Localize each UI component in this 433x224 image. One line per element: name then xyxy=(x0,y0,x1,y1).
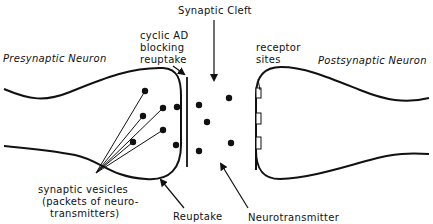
receptor-site xyxy=(256,113,261,124)
reuptake-label: Reuptake xyxy=(173,211,222,222)
synaptic-cleft-label: Synaptic Cleft xyxy=(178,5,252,16)
receptor-label-line1: receptor xyxy=(256,42,301,53)
postsynaptic-membrane-bottom xyxy=(256,150,429,179)
vesicle-leader-lines xyxy=(96,91,163,173)
reuptake-arrow xyxy=(161,180,184,208)
synapse-diagram: Synaptic Cleft Presynaptic Neuron Postsy… xyxy=(0,0,433,224)
receptor-site xyxy=(256,137,261,149)
neurotransmitter-dots xyxy=(196,95,234,154)
cyclic-ad-label-line3: reuptake xyxy=(140,54,187,65)
vesicles-label-line2: (packets of neuro- xyxy=(42,196,139,207)
cyclic-ad-label-line1: cyclic AD xyxy=(140,30,188,41)
neurotransmitter-arrow xyxy=(221,164,248,208)
vesicles-label-line3: transmitters) xyxy=(50,208,119,219)
presynaptic-membrane xyxy=(4,68,181,179)
neurotransmitter-label: Neurotransmitter xyxy=(248,212,340,223)
cyclic-ad-label-line2: blocking xyxy=(140,42,184,53)
receptor-label-line2: sites xyxy=(256,54,281,65)
synaptic-vesicles xyxy=(130,88,180,148)
presynaptic-label: Presynaptic Neuron xyxy=(3,53,107,64)
vesicles-label-line1: synaptic vesicles xyxy=(38,184,128,195)
postsynaptic-label: Postsynaptic Neuron xyxy=(318,55,427,66)
